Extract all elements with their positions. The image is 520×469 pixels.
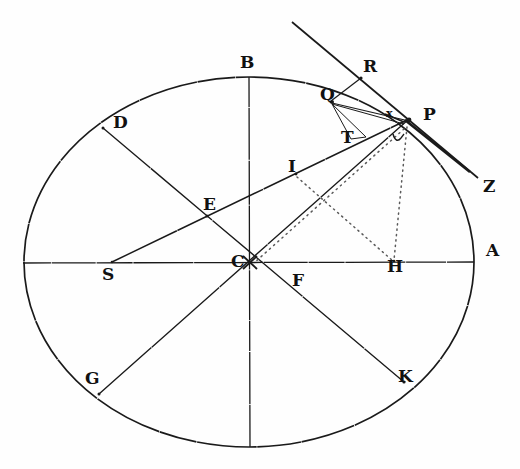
point-label-E: E — [203, 196, 216, 213]
point-dot-s — [111, 261, 114, 264]
line-dotted-ih — [297, 177, 393, 261]
point-label-T: T — [341, 129, 354, 146]
geometry-figure: A S B C D E F G H I K P Q R T Z x — [0, 0, 520, 469]
point-label-I: I — [288, 158, 296, 175]
line-diameter-dk — [103, 128, 404, 382]
mark-v-tail — [401, 134, 404, 138]
line-radius-vector-sp — [112, 119, 409, 262]
point-dot-r — [359, 76, 362, 79]
point-label-R: R — [363, 58, 377, 75]
line-diameter-gp — [99, 119, 409, 394]
point-label-Q: Q — [320, 86, 335, 103]
line-dotted-pc — [254, 129, 404, 263]
point-label-G: G — [85, 370, 100, 387]
point-label-x: x — [386, 108, 393, 119]
point-dot-e — [206, 215, 209, 218]
line-qr — [331, 78, 361, 101]
point-label-P: P — [423, 106, 436, 123]
point-label-K: K — [398, 368, 413, 385]
figure-canvas — [0, 0, 520, 469]
point-label-H: H — [387, 258, 403, 275]
line-dotted-ph — [394, 127, 407, 260]
mark-v-stroke — [393, 134, 401, 140]
point-label-F: F — [292, 272, 304, 289]
point-label-A: A — [486, 242, 499, 259]
point-label-B: B — [240, 54, 254, 71]
point-dot-g — [98, 393, 101, 396]
point-dot-p — [407, 118, 412, 123]
point-label-S: S — [102, 266, 114, 283]
point-label-Z: Z — [483, 178, 495, 195]
point-dot-d — [102, 127, 105, 130]
point-label-D: D — [113, 114, 128, 131]
line-tangent-thick-segment — [405, 120, 470, 172]
point-label-C: C — [231, 253, 245, 270]
